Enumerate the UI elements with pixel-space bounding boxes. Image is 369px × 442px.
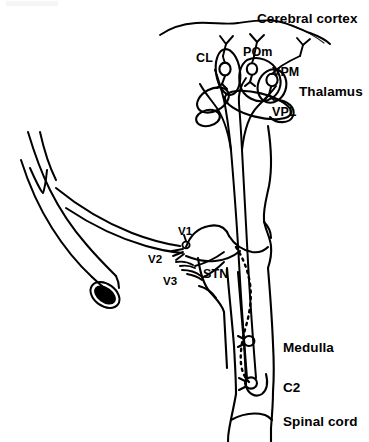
label-stn: STN bbox=[203, 268, 228, 281]
nerve-lumen bbox=[92, 283, 119, 308]
peripheral-trigeminal-branch bbox=[56, 188, 182, 253]
pons-trigeminal-entry-outline bbox=[186, 225, 268, 368]
label-v1: V1 bbox=[178, 226, 192, 238]
spinal-cord-outline bbox=[228, 392, 273, 442]
label-c2: C2 bbox=[283, 381, 300, 395]
label-cerebral-cortex: Cerebral cortex bbox=[257, 12, 358, 26]
trigeminal-pathway-figure: Cerebral cortex CL POm VPM VPL Thalamus … bbox=[0, 0, 369, 442]
brainstem-outline bbox=[227, 126, 274, 396]
diagram-artwork bbox=[0, 0, 369, 442]
label-v2: V2 bbox=[148, 254, 162, 266]
label-vpl: VPL bbox=[272, 106, 297, 119]
label-vpm: VPM bbox=[272, 66, 299, 79]
label-pom: POm bbox=[243, 46, 272, 59]
label-thalamus: Thalamus bbox=[299, 85, 363, 99]
label-spinal-cord: Spinal cord bbox=[283, 415, 358, 429]
label-medulla: Medulla bbox=[283, 341, 334, 355]
label-cl: CL bbox=[196, 52, 213, 65]
label-v3: V3 bbox=[163, 276, 177, 288]
